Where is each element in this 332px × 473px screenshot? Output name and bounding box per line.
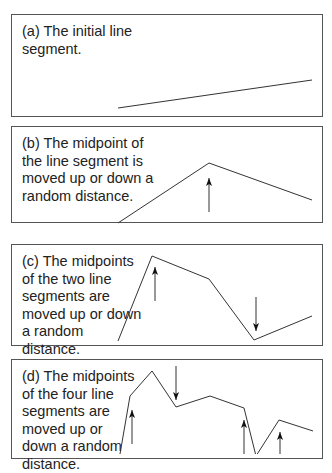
- panel-b-graphic: [118, 163, 312, 223]
- line-segment-path: [118, 256, 312, 341]
- line-segment-path: [120, 371, 313, 454]
- panel-c-graphic: [118, 256, 312, 341]
- line-segment-path: [118, 80, 312, 108]
- panel-a-graphic: [118, 80, 312, 108]
- line-segment-path: [118, 163, 312, 223]
- caption-line: distance.: [22, 456, 192, 473]
- panel-d-graphic: [120, 366, 313, 454]
